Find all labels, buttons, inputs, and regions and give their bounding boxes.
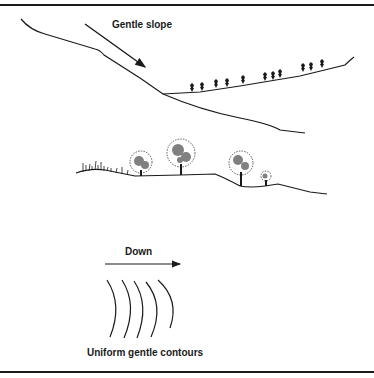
down-label: Down bbox=[125, 246, 152, 257]
contour-lines-icon bbox=[107, 280, 173, 338]
gentle-slope-label: Gentle slope bbox=[112, 19, 172, 30]
slope-profile-line bbox=[21, 19, 305, 133]
slope-arrow-icon bbox=[85, 24, 145, 67]
deciduous-trees-icon bbox=[130, 139, 271, 186]
illustration bbox=[0, 0, 374, 378]
ground-profile-line bbox=[76, 169, 327, 194]
figure: Gentle slope Down Uniform gentle contour… bbox=[0, 0, 374, 378]
contours-caption: Uniform gentle contours bbox=[87, 347, 203, 358]
